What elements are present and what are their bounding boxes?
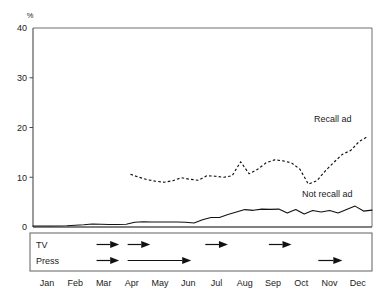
- media-burst-arrow: [97, 257, 120, 264]
- y-axis-tick-label: 0: [22, 222, 27, 232]
- x-axis-month-labels: JanFebMarAprMayJunJulAugSepOctNovDec: [40, 278, 367, 288]
- arrow-head-icon: [282, 241, 291, 248]
- x-axis-month-label: Aug: [237, 278, 253, 288]
- chart-container: % 010203040 Recall ad Not recall ad TV P…: [0, 0, 388, 294]
- arrow-head-icon: [110, 241, 119, 248]
- media-burst-arrow: [269, 241, 292, 248]
- x-axis-month-label: Nov: [322, 278, 339, 288]
- x-axis-month-label: Jun: [181, 278, 196, 288]
- series-line-recall-ad: [130, 136, 367, 184]
- series-annotation-not-recall-ad: Not recall ad: [302, 189, 353, 199]
- media-burst-arrow: [318, 257, 342, 264]
- y-axis-tick-label: 40: [17, 23, 27, 33]
- recall-ad-line-chart: % 010203040 Recall ad Not recall ad TV P…: [0, 0, 388, 294]
- media-row-label-tv: TV: [36, 240, 48, 250]
- y-axis-tick-label: 30: [17, 73, 27, 83]
- x-axis-month-label: Feb: [68, 278, 84, 288]
- media-schedule-arrows: [97, 241, 343, 264]
- x-axis-month-label: Oct: [294, 278, 309, 288]
- x-axis-month-label: Jul: [211, 278, 223, 288]
- x-axis-month-label: Jan: [40, 278, 55, 288]
- x-axis-month-label: Sep: [265, 278, 281, 288]
- media-burst-arrow: [128, 257, 192, 264]
- x-axis-month-label: May: [152, 278, 170, 288]
- y-axis-tick-label: 10: [17, 173, 27, 183]
- y-axis-tick-label: 20: [17, 123, 27, 133]
- x-axis-month-label: Dec: [350, 278, 367, 288]
- series-line-not-recall-ad: [33, 206, 372, 226]
- media-row-label-press: Press: [36, 256, 60, 266]
- media-burst-arrow: [205, 241, 228, 248]
- arrow-head-icon: [219, 241, 228, 248]
- arrow-head-icon: [333, 257, 342, 264]
- x-axis-month-label: Mar: [96, 278, 112, 288]
- x-axis-month-label: Apr: [125, 278, 139, 288]
- arrow-head-icon: [141, 241, 150, 248]
- media-schedule-box: [30, 233, 372, 271]
- media-burst-arrow: [97, 241, 120, 248]
- arrow-head-icon: [110, 257, 119, 264]
- y-axis-unit-label: %: [27, 11, 34, 20]
- y-axis-tick-labels: 010203040: [17, 23, 27, 232]
- arrow-head-icon: [182, 257, 191, 264]
- media-burst-arrow: [128, 241, 151, 248]
- series-annotation-recall-ad: Recall ad: [314, 114, 352, 124]
